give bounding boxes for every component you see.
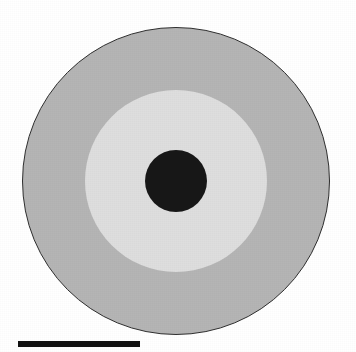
scale-bar bbox=[18, 341, 140, 347]
specimen-zone-core bbox=[145, 150, 207, 212]
specimen-image bbox=[0, 0, 356, 352]
figure-root: Grayscale micrograph showing three conce… bbox=[0, 0, 356, 352]
